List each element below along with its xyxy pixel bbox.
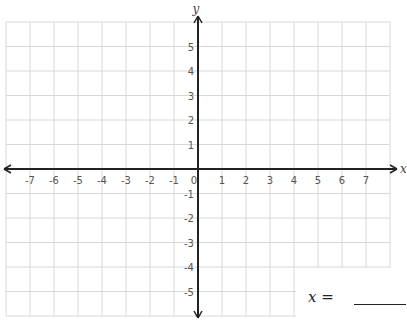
y-tick-label: -1 [184,189,194,200]
y-tick-label: 5 [188,42,194,53]
x-tick-label: -6 [49,175,59,186]
x-tick-label: 2 [243,175,249,186]
y-axis-label: y [192,2,200,16]
x-tick-label: 7 [363,175,369,186]
x-tick-label: -1 [169,175,179,186]
answer-label: x = [308,288,334,306]
x-tick-label: -2 [145,175,155,186]
x-tick-label: -4 [97,175,107,186]
x-tick-label: -5 [73,175,83,186]
answer-box: x = [296,268,407,322]
x-axis-label: x [400,162,407,176]
x-tick-label: 0 [191,175,197,186]
y-tick-label: -2 [184,213,194,224]
x-tick-label: 3 [267,175,273,186]
x-tick-label: 1 [219,175,225,186]
y-tick-label: 2 [188,115,194,126]
y-tick-label: 4 [188,66,194,77]
y-tick-label: 3 [188,91,194,102]
x-tick-label: -3 [121,175,131,186]
y-tick-label: 1 [188,140,194,151]
answer-equals: = [316,288,333,306]
y-tick-label: -3 [184,238,194,249]
x-tick-label: 5 [315,175,321,186]
x-tick-label: 6 [339,175,345,186]
x-tick-label: -7 [25,175,35,186]
answer-blank[interactable] [354,304,406,305]
y-tick-label: -5 [184,287,194,298]
y-tick-label: -4 [184,262,194,273]
x-tick-label: 4 [291,175,297,186]
